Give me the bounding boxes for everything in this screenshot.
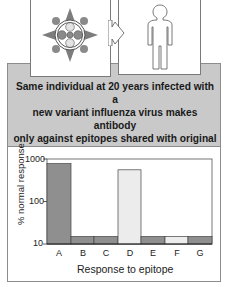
x-axis-title: Response to epitope — [77, 263, 173, 275]
x-tick-C: C — [94, 248, 118, 258]
caption-line: only against epitopes shared with origin… — [12, 132, 218, 145]
virus-box-overlap — [31, 62, 110, 76]
x-tick-F: F — [165, 248, 189, 258]
bar-C — [94, 237, 118, 245]
caption-line: new variant influenza virus makes antibo… — [12, 106, 218, 132]
right-arrow-icon — [108, 20, 126, 46]
bar-G — [188, 237, 212, 245]
bar-D — [118, 170, 141, 244]
x-tick-G: G — [188, 248, 212, 258]
bar-F — [165, 237, 188, 245]
bar-A — [47, 164, 71, 244]
x-tick-B: B — [71, 248, 95, 258]
bar-chart — [40, 155, 215, 250]
x-tick-D: D — [118, 248, 142, 258]
x-tick-A: A — [47, 248, 71, 258]
bar-B — [71, 237, 94, 245]
x-tick-E: E — [141, 248, 165, 258]
caption-line: Same individual at 20 years infected wit… — [12, 80, 218, 106]
person-icon — [145, 4, 175, 70]
bar-E — [141, 237, 165, 245]
